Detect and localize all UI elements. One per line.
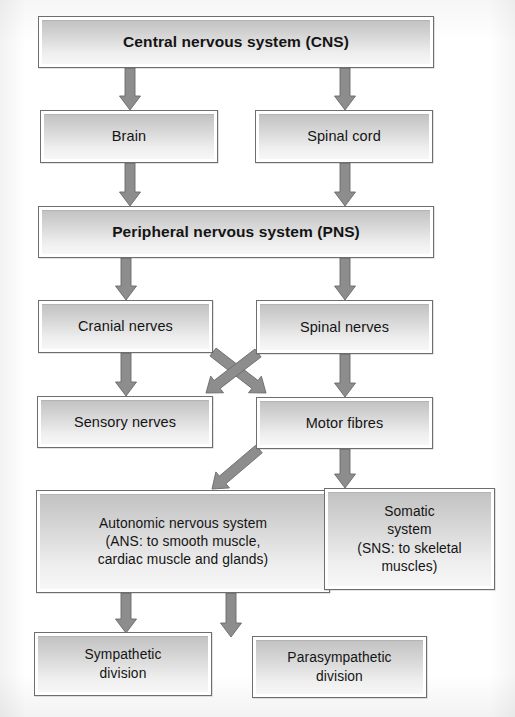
node-sympathetic-fill: Sympathetic division [38, 636, 208, 692]
arrow-ans-to-parasympathetic-shape [221, 593, 242, 637]
node-sensory-nerves: Sensory nerves [37, 396, 213, 448]
arrow-cns-to-brain-shape [120, 68, 141, 110]
arrow-cns-to-brain [120, 68, 141, 110]
arrow-motor-to-somatic-shape [335, 449, 356, 488]
arrow-ans-to-sympathetic [116, 593, 137, 633]
node-somatic: Somatic system (SNS: to skeletal muscles… [324, 488, 495, 590]
node-somatic-fill: Somatic system (SNS: to skeletal muscles… [328, 492, 491, 586]
node-pns-fill: Peripheral nervous system (PNS) [42, 210, 430, 254]
arrow-cranial-to-sensory [116, 353, 137, 396]
node-cranial-nerves-label: Cranial nerves [74, 318, 177, 335]
arrow-motor-to-ans [212, 445, 262, 489]
arrow-cns-to-spinal-cord-shape [335, 68, 356, 110]
node-parasympathetic-label: Parasympathetic division [283, 649, 395, 685]
node-spinal-cord-label: Spinal cord [303, 128, 385, 145]
node-cns-fill: Central nervous system (CNS) [42, 20, 430, 64]
node-pns-label: Peripheral nervous system (PNS) [108, 223, 364, 241]
node-brain: Brain [40, 110, 218, 163]
arrow-pns-to-spinal-nerves-shape [335, 258, 356, 300]
node-sensory-nerves-fill: Sensory nerves [41, 400, 209, 444]
node-cns: Central nervous system (CNS) [38, 16, 434, 68]
nervous-system-flowchart: Central nervous system (CNS)BrainSpinal … [0, 0, 515, 717]
node-brain-label: Brain [108, 128, 150, 145]
node-spinal-cord-fill: Spinal cord [259, 114, 429, 159]
node-parasympathetic-fill: Parasympathetic division [256, 640, 423, 694]
arrow-cranial-to-sensory-shape [116, 353, 137, 396]
node-cranial-nerves: Cranial nerves [38, 300, 213, 353]
arrow-spinal-nerves-to-motor [335, 354, 356, 397]
node-sympathetic-label: Sympathetic division [80, 646, 165, 682]
node-spinal-cord: Spinal cord [255, 110, 433, 163]
node-motor-fibres-fill: Motor fibres [260, 401, 429, 445]
node-spinal-nerves-fill: Spinal nerves [260, 304, 429, 350]
node-parasympathetic: Parasympathetic division [252, 636, 427, 698]
node-motor-fibres: Motor fibres [256, 397, 433, 449]
arrow-spinal-cord-to-pns-shape [335, 163, 356, 206]
node-spinal-nerves: Spinal nerves [256, 300, 433, 354]
arrow-cns-to-spinal-cord [335, 68, 356, 110]
node-sympathetic: Sympathetic division [34, 632, 212, 696]
arrow-motor-to-ans-shape [212, 445, 262, 489]
node-pns: Peripheral nervous system (PNS) [38, 206, 434, 258]
node-spinal-nerves-label: Spinal nerves [296, 319, 393, 336]
node-cranial-nerves-fill: Cranial nerves [42, 304, 209, 349]
node-ans-fill: Autonomic nervous system (ANS: to smooth… [40, 494, 326, 589]
arrow-spinal-nerves-to-motor-shape [335, 354, 356, 397]
arrow-brain-to-pns-shape [120, 163, 141, 206]
arrow-motor-to-somatic [335, 449, 356, 488]
node-motor-fibres-label: Motor fibres [302, 415, 388, 432]
node-somatic-label: Somatic system (SNS: to skeletal muscles… [353, 503, 465, 576]
arrow-pns-to-spinal-nerves [335, 258, 356, 300]
arrow-ans-to-parasympathetic [221, 593, 242, 637]
arrow-pns-to-cranial-nerves [116, 258, 137, 300]
node-cns-label: Central nervous system (CNS) [119, 33, 353, 51]
node-sensory-nerves-label: Sensory nerves [70, 414, 180, 431]
arrow-brain-to-pns [120, 163, 141, 206]
node-brain-fill: Brain [44, 114, 214, 159]
arrow-layer [0, 0, 515, 717]
arrow-spinal-cord-to-pns [335, 163, 356, 206]
arrow-ans-to-sympathetic-shape [116, 593, 137, 633]
arrow-pns-to-cranial-nerves-shape [116, 258, 137, 300]
node-ans: Autonomic nervous system (ANS: to smooth… [36, 490, 330, 593]
node-ans-label: Autonomic nervous system (ANS: to smooth… [94, 515, 273, 570]
